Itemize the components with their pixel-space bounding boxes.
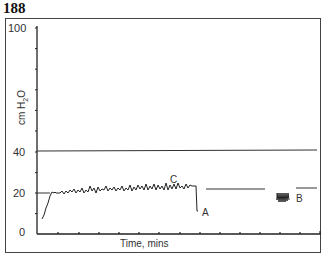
- pressure-trace: [42, 183, 198, 219]
- svg-text:cm H2O: cm H2O: [16, 90, 29, 125]
- ytick-0: 0: [19, 226, 25, 238]
- annotation-b: B: [296, 193, 303, 204]
- chart-frame: [6, 19, 321, 253]
- y-axis-title: cm H2O: [16, 90, 29, 125]
- ytick-100: 100: [8, 22, 26, 34]
- chart: 100 40 20 0 cm H2O Time, mins C A B: [0, 0, 325, 263]
- ytick-40: 40: [13, 146, 25, 158]
- annotation-c: C: [170, 174, 177, 185]
- oscillation-burst: [277, 193, 289, 202]
- annotation-a: A: [202, 207, 209, 218]
- reference-line-40: [37, 150, 317, 151]
- x-axis-title: Time, mins: [120, 238, 169, 249]
- ytick-20: 20: [13, 187, 25, 199]
